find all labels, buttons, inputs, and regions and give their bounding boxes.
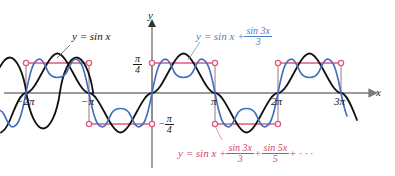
x-tick-3pi: 3π xyxy=(334,96,345,107)
x-tick-2pi: 2π xyxy=(271,96,282,107)
two-term-label-prefix: y = sin x + xyxy=(196,30,244,42)
three-term-label-ellipsis: + · · · xyxy=(289,147,313,159)
x-tick-pi: π xyxy=(211,96,217,107)
three-term-label-plus: + xyxy=(254,147,261,159)
two-term-label-denominator: 3 xyxy=(244,37,272,47)
three-term-label-denominator-1: 3 xyxy=(226,154,254,164)
fourier-series-figure: −2π −π π 2π 3π x y π 4 − π 4 y = sin x y… xyxy=(0,0,395,176)
three-term-curve-label: y = sin x + sin 3x 3 + sin 5x 5 + · · · xyxy=(178,143,313,164)
x-tick-minus-2pi: −2π xyxy=(16,96,34,107)
y-tick-minus-pi-over-4: − π 4 xyxy=(159,114,174,135)
y-tick-pi-over-4-denominator: 4 xyxy=(133,65,142,75)
two-term-curve-label: y = sin x + sin 3x 3 xyxy=(196,26,272,47)
x-axis-label: x xyxy=(376,87,381,98)
y-tick-pi-over-4: π 4 xyxy=(133,54,142,75)
x-tick-minus-pi: −π xyxy=(81,96,94,107)
three-term-label-denominator-2: 5 xyxy=(262,154,290,164)
y-axis-label: y xyxy=(148,10,153,21)
three-term-label-prefix: y = sin x + xyxy=(178,147,226,159)
sine-curve-label: y = sin x xyxy=(72,31,110,42)
y-tick-minus-pi-over-4-denominator: 4 xyxy=(165,125,174,135)
three-term-label-leader xyxy=(215,126,222,140)
